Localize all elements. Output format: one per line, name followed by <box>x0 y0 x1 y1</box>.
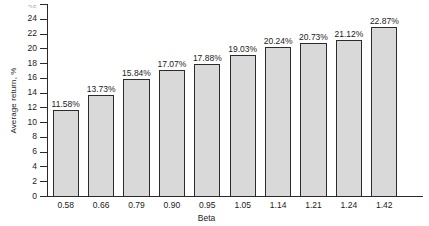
bar-value-label: 15.84% <box>122 68 151 78</box>
y-axis-tick-label: 12 <box>7 107 37 108</box>
y-axis-line <box>47 4 48 196</box>
bar-value-label: 11.58% <box>52 99 80 109</box>
x-axis-tick-label: 1.05 <box>234 200 251 210</box>
y-axis-tick-label: 8 <box>7 136 37 137</box>
y-axis-tick <box>40 152 47 153</box>
x-axis-line <box>47 196 423 197</box>
y-axis-tick <box>40 107 47 108</box>
bar-value-label: 21.12% <box>334 29 363 39</box>
bar-value-label: 20.24% <box>264 36 293 46</box>
y-axis-tick-label: 10 <box>7 122 37 123</box>
bar-value-label: 20.73% <box>299 32 328 42</box>
x-axis-title: Beta <box>0 213 429 223</box>
bar-value-label: 13.73% <box>87 84 116 94</box>
bar-value-label: 17.07% <box>157 59 186 69</box>
x-axis-tick-label: 1.14 <box>270 200 287 210</box>
bar <box>194 64 220 196</box>
x-axis-tick-label: 1.42 <box>376 200 393 210</box>
bar <box>265 47 291 196</box>
y-axis-tick-label: 6 <box>7 151 37 152</box>
y-axis-tick <box>40 181 47 182</box>
y-axis-tick <box>40 78 47 79</box>
y-axis-tick-label: 0 <box>7 196 37 197</box>
bar <box>371 27 397 196</box>
y-axis-tick <box>40 122 47 123</box>
y-axis-tick-label: 14 <box>7 92 37 93</box>
y-axis-tick <box>40 19 47 20</box>
bar <box>123 79 149 196</box>
x-axis-title-text: Beta <box>198 213 216 223</box>
y-axis-tick <box>40 63 47 64</box>
y-axis-tick <box>40 48 47 49</box>
bar <box>300 43 326 196</box>
y-axis-tick-label: 24 <box>7 18 37 19</box>
x-axis-tick-label: 1.24 <box>341 200 358 210</box>
y-axis-tick-label: 18 <box>7 63 37 64</box>
y-axis-tick <box>40 196 47 197</box>
bar <box>159 70 185 196</box>
bar <box>230 55 256 196</box>
y-axis-tick-label: 4 <box>7 166 37 167</box>
y-axis-tick-label: 22 <box>7 33 37 34</box>
y-axis-tick <box>40 93 47 94</box>
x-axis-tick-label: 1.21 <box>305 200 322 210</box>
bar-value-label: 17.88% <box>193 53 222 63</box>
bar-value-label: 22.87% <box>370 16 399 26</box>
bar <box>88 95 114 196</box>
y-axis-tick <box>40 34 47 35</box>
bar-value-label: 19.03% <box>228 44 257 54</box>
bar-chart: Average return, % 0246810121416182022242… <box>0 0 429 226</box>
y-axis-tick-label: 26 <box>7 4 37 8</box>
y-axis-tick-label: 2 <box>7 181 37 182</box>
y-axis-tick <box>40 137 47 138</box>
y-axis-title: Average return, % <box>9 36 18 166</box>
bar <box>336 40 362 196</box>
y-axis-tick <box>40 166 47 167</box>
x-axis-tick-label: 0.79 <box>128 200 145 210</box>
bar <box>53 110 79 196</box>
x-axis-tick-label: 0.66 <box>93 200 110 210</box>
y-axis-tick-label: 20 <box>7 48 37 49</box>
x-axis-tick-label: 0.90 <box>164 200 181 210</box>
x-axis-tick-label: 0.58 <box>57 200 74 210</box>
x-axis-tick-label: 0.95 <box>199 200 216 210</box>
y-axis-tick <box>40 4 47 5</box>
y-axis-tick-label: 16 <box>7 77 37 78</box>
